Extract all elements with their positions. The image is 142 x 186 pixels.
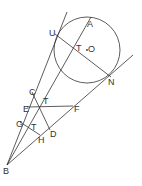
label-T1: T	[76, 43, 82, 53]
label-F: F	[74, 104, 80, 114]
label-T3: T	[31, 122, 37, 132]
label-A: A	[87, 19, 93, 29]
label-N: N	[108, 77, 115, 87]
label-O: O	[88, 44, 95, 54]
label-G: G	[16, 119, 23, 129]
label-B: B	[3, 166, 9, 176]
line-left-tangent	[7, 12, 67, 165]
line-EF	[27, 106, 73, 107]
label-T2: T	[43, 96, 49, 106]
label-D: D	[50, 129, 57, 139]
line-BA	[7, 17, 91, 165]
label-U: U	[49, 28, 56, 38]
label-H: H	[38, 135, 45, 145]
geometry-diagram: A U T O N C T E F G T D H B	[0, 0, 142, 186]
label-E: E	[23, 104, 29, 114]
label-C: C	[29, 87, 36, 97]
line-UN	[55, 34, 111, 77]
